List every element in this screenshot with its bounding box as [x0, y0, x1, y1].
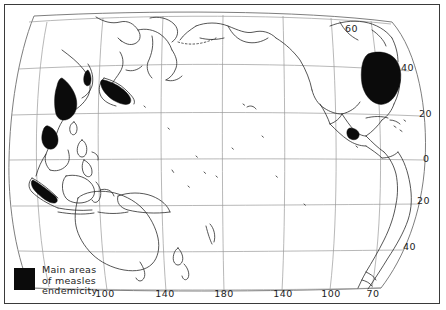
coastline-aleutians — [178, 38, 216, 44]
endemic-areas — [31, 52, 400, 203]
lon-label-70w: 70 — [367, 288, 380, 299]
lon-label-140w: 140 — [273, 288, 292, 299]
lat-label-40s: 40 — [403, 241, 416, 252]
endemic-korea — [84, 70, 91, 86]
endemic-northeast-us — [361, 52, 401, 104]
lat-label-20s: 20 — [417, 195, 430, 206]
lon-label-140e: 140 — [155, 288, 174, 299]
map-limb — [9, 12, 426, 291]
legend-label: Main areas of measles endemicity — [42, 265, 138, 297]
endemic-southern-mexico — [347, 128, 359, 140]
coastline-new-zealand — [173, 248, 189, 280]
lat-label-60: 60 — [345, 23, 358, 34]
endemic-sumatra-java — [31, 180, 57, 203]
map-figure: 60 40 20 0 20 40 100 140 180 140 100 70 … — [0, 0, 446, 310]
lon-label-100w: 100 — [321, 288, 340, 299]
coastline-alaska — [180, 23, 276, 43]
legend-line-3: endemicity — [42, 286, 138, 297]
coastline-south-america — [358, 152, 411, 289]
legend-swatch — [14, 268, 35, 290]
lat-label-0: 0 — [423, 153, 429, 164]
endemic-indochina — [42, 126, 58, 149]
endemic-east-china — [55, 78, 77, 120]
lon-label-180: 180 — [214, 288, 233, 299]
lat-label-20n: 20 — [419, 108, 432, 119]
lat-label-40n: 40 — [401, 62, 414, 73]
legend-line-1: Main areas — [42, 265, 138, 276]
coastline-northeast-asia — [96, 17, 182, 81]
